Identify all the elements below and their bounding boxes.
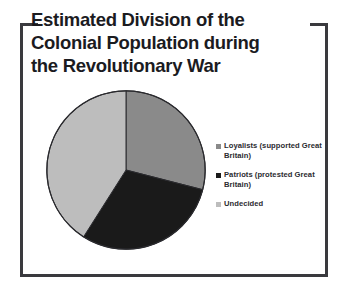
slide-canvas: Estimated Division of the Colonial Popul… [0,0,348,290]
legend-item-loyalists[interactable]: Loyalists (supported Great Britain) [216,141,324,161]
legend-label-undecided: Undecided [224,199,263,209]
pie-chart-svg [45,89,207,251]
legend-item-patriots[interactable]: Patriots (protested Great Britain) [216,170,324,190]
legend-item-undecided[interactable]: Undecided [216,199,324,209]
chart-title-line-2: Colonial Population during [31,31,321,54]
frame-edge-left [20,23,23,277]
legend-swatch-patriots-icon [216,173,221,178]
frame-edge-right [325,23,328,277]
legend-label-loyalists: Loyalists (supported Great Britain) [224,141,324,161]
frame-edge-bottom [20,274,328,277]
legend-label-patriots: Patriots (protested Great Britain) [224,170,324,190]
legend-swatch-loyalists-icon [216,144,221,149]
chart-title: Estimated Division of the Colonial Popul… [31,8,321,77]
chart-title-line-1: Estimated Division of the [31,8,321,31]
pie-slice-group [47,91,205,249]
chart-title-line-3: the Revolutionary War [31,54,321,77]
pie-chart [45,89,207,251]
legend-swatch-undecided-icon [216,202,221,207]
chart-legend: Loyalists (supported Great Britain) Patr… [216,141,324,218]
